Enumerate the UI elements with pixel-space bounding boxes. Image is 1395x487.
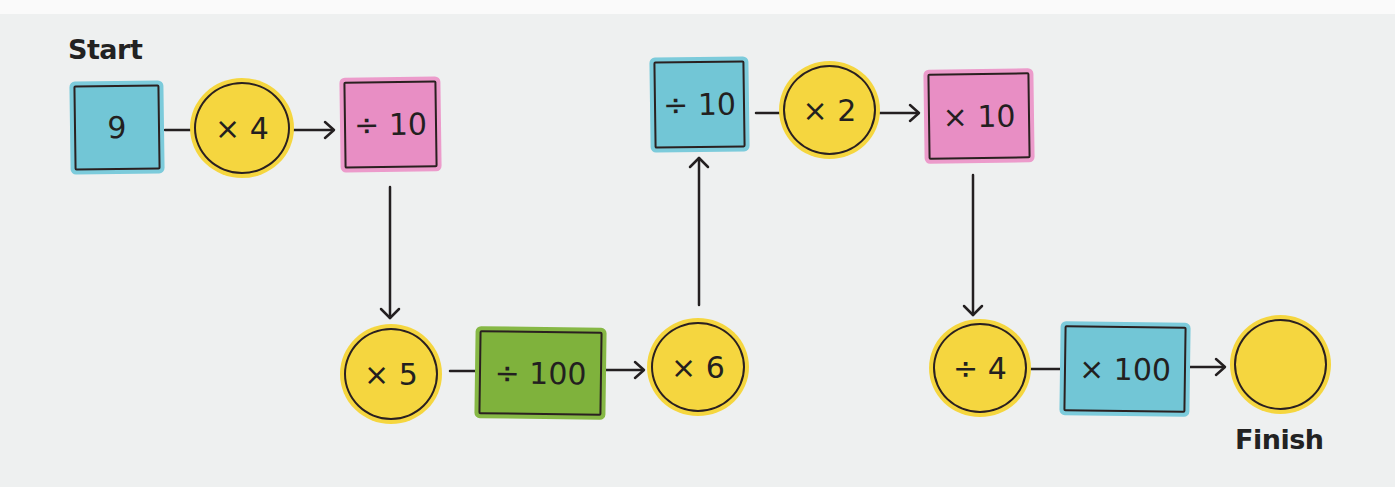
arrowhead-n9 [910,105,919,121]
node-label: × 6 [671,350,725,385]
node-finish-answer[interactable] [1234,319,1327,410]
arrowhead-n4 [381,309,399,318]
node-multiply-6: × 6 [651,322,745,412]
arrowhead-n10 [964,306,982,315]
node-multiply-5: × 5 [344,328,438,420]
node-multiply-4: × 4 [194,82,290,174]
node-label: ÷ 100 [494,355,586,391]
node-label: × 2 [803,93,857,128]
node-label: × 4 [215,111,269,146]
arrowhead-n3 [325,122,334,138]
finish-label: Finish [1235,424,1323,455]
arrowhead-n6 [635,362,644,378]
start-label: Start [68,34,142,65]
node-label: 9 [107,110,127,145]
node-divide-10-a: ÷ 10 [343,80,437,168]
page-top-edge [0,0,1395,14]
node-start-value: 9 [73,84,160,170]
node-label: × 5 [364,357,418,392]
node-divide-100: ÷ 100 [478,330,602,416]
arrowhead-n7 [690,158,708,167]
node-label: × 10 [942,98,1015,134]
node-label: ÷ 10 [663,86,736,122]
node-label: × 100 [1079,351,1171,387]
node-multiply-100: × 100 [1063,325,1186,413]
node-multiply-2: × 2 [783,65,876,155]
arrowhead-n12 [1216,359,1225,375]
node-multiply-10: × 10 [927,72,1030,159]
node-label: ÷ 4 [953,351,1007,386]
node-divide-10-b: ÷ 10 [653,60,745,148]
node-label: ÷ 10 [354,106,427,142]
node-divide-4: ÷ 4 [933,323,1027,413]
